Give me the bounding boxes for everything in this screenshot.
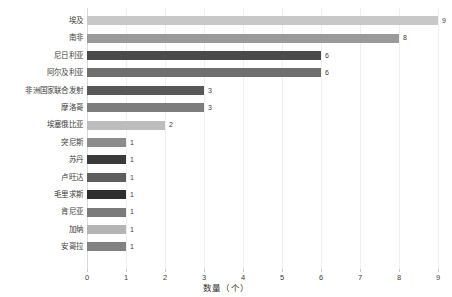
category-label: 卢旺达 [61, 169, 83, 186]
gridline [438, 8, 439, 269]
bar-row: 肯尼亚1 [87, 203, 438, 220]
bar-row: 卢旺达1 [87, 169, 438, 186]
bar[interactable] [87, 225, 126, 234]
bar-value-label: 3 [208, 99, 212, 116]
x-tick-mark [360, 269, 361, 272]
category-label: 加纳 [69, 221, 83, 238]
bar-value-label: 1 [130, 186, 134, 203]
bar[interactable] [87, 138, 126, 147]
bar-row: 摩洛哥3 [87, 99, 438, 116]
category-label: 南非 [69, 29, 83, 46]
category-label: 苏丹 [69, 151, 83, 168]
bar-value-label: 3 [208, 82, 212, 99]
bar[interactable] [87, 190, 126, 199]
bar[interactable] [87, 51, 321, 60]
bar-row: 阿尔及利亚6 [87, 64, 438, 81]
category-label: 阿尔及利亚 [47, 64, 83, 81]
bar-value-label: 2 [169, 116, 173, 133]
category-label: 突尼斯 [61, 134, 83, 151]
x-tick-mark [243, 269, 244, 272]
bar-value-label: 1 [130, 151, 134, 168]
bar-row: 埃及9 [87, 12, 438, 29]
category-label: 尼日利亚 [54, 47, 83, 64]
bar-value-label: 1 [130, 203, 134, 220]
x-tick-mark [282, 269, 283, 272]
category-label: 埃及 [69, 12, 83, 29]
bar[interactable] [87, 173, 126, 182]
bar-value-label: 9 [442, 12, 446, 29]
bar-row: 埃塞俄比亚2 [87, 116, 438, 133]
plot-area: 埃及9南非8尼日利亚6阿尔及利亚6非洲国家联合发射3摩洛哥3埃塞俄比亚2突尼斯1… [87, 8, 438, 269]
bar-row: 毛里求斯1 [87, 186, 438, 203]
bar[interactable] [87, 103, 204, 112]
category-label: 肯尼亚 [61, 203, 83, 220]
x-axis-title: 数量（个） [0, 281, 452, 293]
bar-value-label: 1 [130, 169, 134, 186]
category-label: 埃塞俄比亚 [47, 116, 83, 133]
bar[interactable] [87, 16, 438, 25]
bar-value-label: 1 [130, 134, 134, 151]
x-tick-mark [321, 269, 322, 272]
category-label: 摩洛哥 [61, 99, 83, 116]
x-tick-mark [87, 269, 88, 272]
bar[interactable] [87, 242, 126, 251]
bar-row: 加纳1 [87, 221, 438, 238]
x-tick-mark [399, 269, 400, 272]
bar-row: 非洲国家联合发射3 [87, 82, 438, 99]
category-label: 毛里求斯 [54, 186, 83, 203]
bar-value-label: 1 [130, 221, 134, 238]
bar-value-label: 8 [403, 29, 407, 46]
category-label: 安哥拉 [61, 238, 83, 255]
bar[interactable] [87, 121, 165, 130]
bar[interactable] [87, 34, 399, 43]
bar-row: 南非8 [87, 29, 438, 46]
bar[interactable] [87, 208, 126, 217]
x-tick-mark [165, 269, 166, 272]
x-tick-mark [204, 269, 205, 272]
bar-chart: 埃及9南非8尼日利亚6阿尔及利亚6非洲国家联合发射3摩洛哥3埃塞俄比亚2突尼斯1… [0, 0, 452, 297]
bar[interactable] [87, 155, 126, 164]
category-label: 非洲国家联合发射 [25, 82, 83, 99]
x-tick-mark [126, 269, 127, 272]
bar-row: 苏丹1 [87, 151, 438, 168]
bar[interactable] [87, 68, 321, 77]
bar-row: 安哥拉1 [87, 238, 438, 255]
bar-value-label: 6 [325, 47, 329, 64]
bar-value-label: 1 [130, 238, 134, 255]
x-tick-mark [438, 269, 439, 272]
bar-row: 突尼斯1 [87, 134, 438, 151]
bar-row: 尼日利亚6 [87, 47, 438, 64]
bar[interactable] [87, 86, 204, 95]
bar-value-label: 6 [325, 64, 329, 81]
